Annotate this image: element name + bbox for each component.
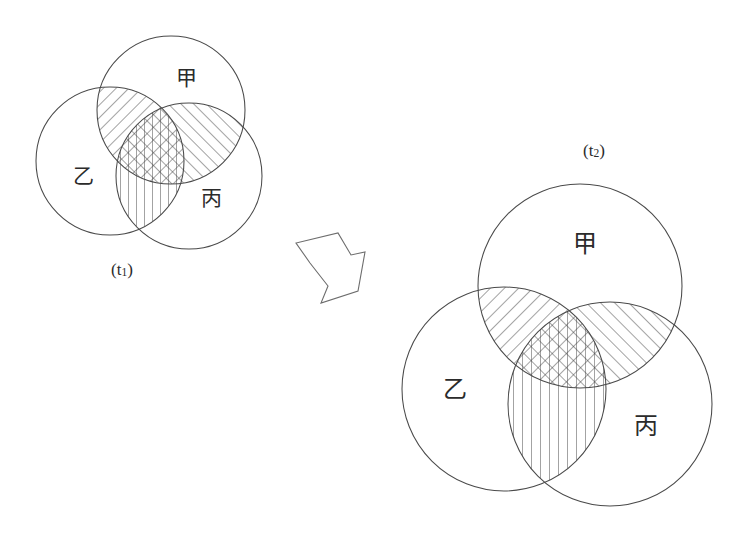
set-label-yi-left: 乙	[73, 164, 94, 188]
set-label-bing-left: 丙	[201, 186, 222, 210]
set-label-bing-right: 丙	[634, 412, 658, 440]
time-label-t2: (t2)	[583, 141, 605, 160]
transition-arrow-icon	[296, 233, 365, 303]
left-venn-panel: 甲 乙 丙 (t1)	[0, 0, 750, 547]
set-label-jia-left: 甲	[176, 66, 197, 90]
time-label-t1: (t1)	[111, 260, 133, 279]
set-label-yi-right: 乙	[443, 375, 467, 403]
venn-figure-canvas: 甲 乙 丙 (t1) 甲 乙 丙	[0, 0, 750, 547]
set-label-jia-right: 甲	[573, 230, 597, 258]
